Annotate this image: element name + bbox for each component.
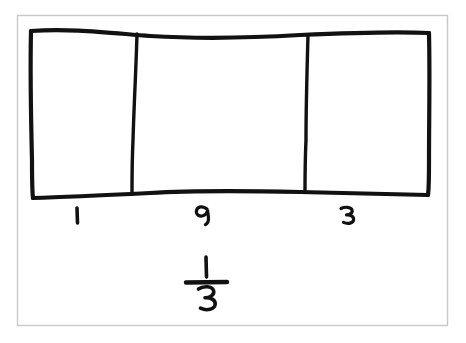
fraction-vinculum [186, 282, 227, 283]
part-label-1 [77, 208, 78, 223]
outer-frame [18, 16, 448, 326]
fraction-numerator [206, 257, 207, 277]
fraction-diagram [0, 0, 466, 343]
bar-left-edge [31, 31, 33, 198]
figure-canvas: 1 2 3 1 3 1/3 [0, 0, 466, 343]
fraction-numerator-one-stroke [206, 257, 207, 277]
digit-one-stroke [77, 208, 78, 223]
bar-right-edge [428, 33, 429, 195]
